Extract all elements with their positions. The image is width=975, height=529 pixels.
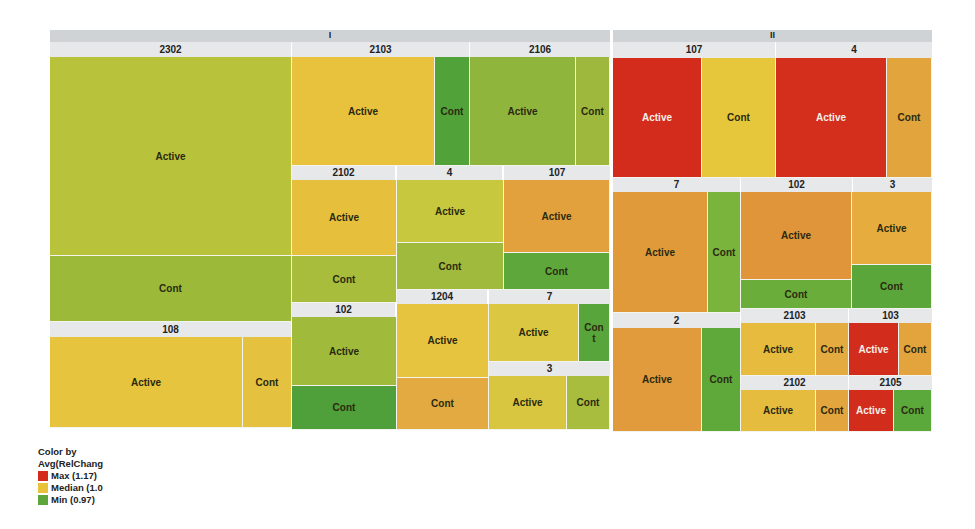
treemap-cell-ii-7-cont[interactable]: Cont (708, 192, 741, 313)
legend-item-median[interactable]: Median (1.0 (38, 482, 103, 494)
subgroup-header-ii-7[interactable]: 7 (613, 178, 740, 192)
treemap-cell-ii-107-cont[interactable]: Cont (702, 58, 776, 178)
group-header-ii[interactable]: II (613, 30, 932, 42)
treemap-cell-i-7-active[interactable]: Active (489, 304, 579, 362)
treemap-cell-i-2102-active[interactable]: Active (292, 180, 397, 256)
subgroup-header-i-2302[interactable]: 2302 (50, 42, 291, 57)
legend-swatch-min (38, 495, 48, 505)
treemap-cell-ii-103-active[interactable]: Active (849, 323, 899, 376)
treemap-cell-i-3-active[interactable]: Active (489, 376, 567, 430)
color-legend: Color by Avg(RelChang Max (1.17) Median … (38, 446, 103, 506)
treemap-cell-i-107-cont[interactable]: Cont (504, 253, 610, 290)
treemap-cell-ii-2102-cont[interactable]: Cont (816, 390, 849, 432)
treemap-cell-ii-3-active[interactable]: Active (852, 192, 932, 265)
treemap-cell-i-102-cont[interactable]: Cont (292, 386, 397, 430)
treemap-cell-ii-2103-active[interactable]: Active (741, 323, 816, 376)
treemap-cell-i-108-active[interactable]: Active (50, 337, 243, 428)
treemap-cell-ii-2-active[interactable]: Active (613, 328, 702, 432)
treemap-cell-i-2302-cont[interactable]: Cont (50, 256, 292, 322)
treemap-cell-i-7-cont[interactable]: Cont (579, 304, 610, 362)
treemap-cell-i-2102-cont[interactable]: Cont (292, 256, 397, 303)
legend-swatch-max (38, 471, 48, 481)
legend-item-min[interactable]: Min (0.97) (38, 494, 103, 506)
subgroup-header-i-2102[interactable]: 2102 (292, 166, 395, 180)
subgroup-header-ii-2102[interactable]: 2102 (741, 376, 848, 390)
subgroup-header-i-2103[interactable]: 2103 (292, 42, 469, 57)
legend-label-min: Min (0.97) (51, 494, 95, 506)
treemap-cell-i-2302-active[interactable]: Active (50, 57, 292, 256)
subgroup-header-ii-103[interactable]: 103 (849, 309, 932, 323)
legend-label-median: Median (1.0 (51, 482, 103, 494)
treemap-cell-ii-2-cont[interactable]: Cont (702, 328, 741, 432)
treemap-cell-i-3-cont[interactable]: Cont (567, 376, 610, 430)
subgroup-header-ii-2105[interactable]: 2105 (849, 376, 932, 390)
subgroup-header-ii-2103[interactable]: 2103 (741, 309, 848, 323)
subgroup-header-ii-102[interactable]: 102 (741, 178, 852, 192)
subgroup-header-i-102[interactable]: 102 (292, 303, 395, 317)
legend-title-line2: Avg(RelChang (38, 458, 103, 470)
subgroup-header-i-1204[interactable]: 1204 (397, 290, 487, 304)
treemap-cell-ii-103-cont[interactable]: Cont (899, 323, 932, 376)
treemap-cell-ii-2105-active[interactable]: Active (849, 390, 894, 432)
treemap-chart: III2302108210321062102410710212047310747… (0, 0, 975, 440)
treemap-cell-ii-2103-cont[interactable]: Cont (816, 323, 849, 376)
treemap-cell-ii-102-cont[interactable]: Cont (741, 280, 852, 309)
subgroup-header-ii-3[interactable]: 3 (853, 178, 932, 192)
treemap-cell-i-2103-cont[interactable]: Cont (435, 57, 470, 166)
treemap-cell-i-2103-active[interactable]: Active (292, 57, 435, 166)
treemap-cell-i-4-active[interactable]: Active (397, 180, 504, 243)
subgroup-header-i-108[interactable]: 108 (50, 322, 291, 337)
treemap-cell-ii-3-cont[interactable]: Cont (852, 265, 932, 309)
subgroup-header-i-107[interactable]: 107 (504, 166, 610, 180)
subgroup-header-i-7[interactable]: 7 (489, 290, 610, 304)
subgroup-header-i-3[interactable]: 3 (489, 362, 610, 376)
treemap-cell-ii-2105-cont[interactable]: Cont (894, 390, 932, 432)
treemap-cell-i-102-active[interactable]: Active (292, 317, 397, 386)
subgroup-header-i-2106[interactable]: 2106 (470, 42, 610, 57)
subgroup-header-ii-2[interactable]: 2 (613, 313, 740, 328)
treemap-cell-ii-4-cont[interactable]: Cont (887, 58, 932, 178)
legend-swatch-median (38, 483, 48, 493)
group-header-i[interactable]: I (50, 30, 610, 42)
legend-title-line1: Color by (38, 446, 103, 458)
treemap-cell-i-2106-active[interactable]: Active (470, 57, 576, 166)
legend-item-max[interactable]: Max (1.17) (38, 470, 103, 482)
treemap-cell-i-107-active[interactable]: Active (504, 180, 610, 253)
subgroup-header-ii-4[interactable]: 4 (776, 42, 932, 58)
treemap-cell-ii-102-active[interactable]: Active (741, 192, 852, 280)
treemap-cell-ii-4-active[interactable]: Active (776, 58, 887, 178)
treemap-cell-ii-2102-active[interactable]: Active (741, 390, 816, 432)
treemap-cell-i-2106-cont[interactable]: Cont (576, 57, 610, 166)
treemap-cell-i-108-cont[interactable]: Cont (243, 337, 292, 428)
treemap-cell-ii-107-active[interactable]: Active (613, 58, 702, 178)
legend-label-max: Max (1.17) (51, 470, 97, 482)
treemap-cell-i-1204-cont[interactable]: Cont (397, 378, 489, 430)
treemap-cell-i-4-cont[interactable]: Cont (397, 243, 504, 290)
treemap-cell-ii-7-active[interactable]: Active (613, 192, 708, 313)
treemap-cell-i-1204-active[interactable]: Active (397, 304, 489, 378)
subgroup-header-i-4[interactable]: 4 (397, 166, 502, 180)
subgroup-header-ii-107[interactable]: 107 (613, 42, 775, 58)
